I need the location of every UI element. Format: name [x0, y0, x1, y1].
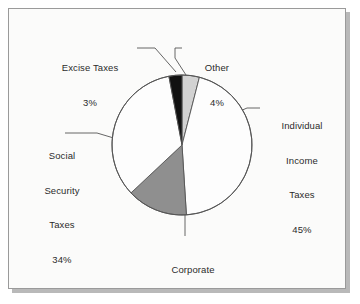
slice-label-individual-income-taxes-line3: Taxes [263, 189, 341, 201]
slice-label-other-name: Other [187, 62, 247, 74]
slice-label-excise-taxes-name: Excise Taxes [35, 62, 145, 74]
slice-label-individual-income-taxes-value: 45% [263, 224, 341, 236]
slice-label-social-security-taxes-line1: Social [23, 150, 101, 162]
slice-label-corporate-income-taxes-line1: Corporate [135, 264, 251, 276]
slice-label-corporate-income-taxes: Corporate Income Taxes 14% [135, 241, 251, 289]
slice-label-other-value: 4% [187, 97, 247, 109]
slice-label-social-security-taxes: Social Security Taxes 34% [23, 127, 101, 288]
slice-label-social-security-taxes-value: 34% [23, 254, 101, 266]
slice-label-excise-taxes-value: 3% [35, 97, 145, 109]
chart-screenshot: Excise Taxes 3% Other 4% Individual Inco… [0, 0, 360, 304]
slice-label-individual-income-taxes: Individual Income Taxes 45% [263, 97, 341, 258]
pie-chart-figure: Excise Taxes 3% Other 4% Individual Inco… [9, 9, 346, 289]
slice-label-individual-income-taxes-line2: Income [263, 155, 341, 167]
slice-label-individual-income-taxes-line1: Individual [263, 120, 341, 132]
slice-label-social-security-taxes-line2: Security [23, 185, 101, 197]
slice-label-other: Other 4% [187, 39, 247, 131]
slice-label-excise-taxes: Excise Taxes 3% [35, 39, 145, 131]
chart-panel: Excise Taxes 3% Other 4% Individual Inco… [8, 8, 346, 289]
slice-label-social-security-taxes-line3: Taxes [23, 219, 101, 231]
leader-line-other [175, 48, 186, 75]
